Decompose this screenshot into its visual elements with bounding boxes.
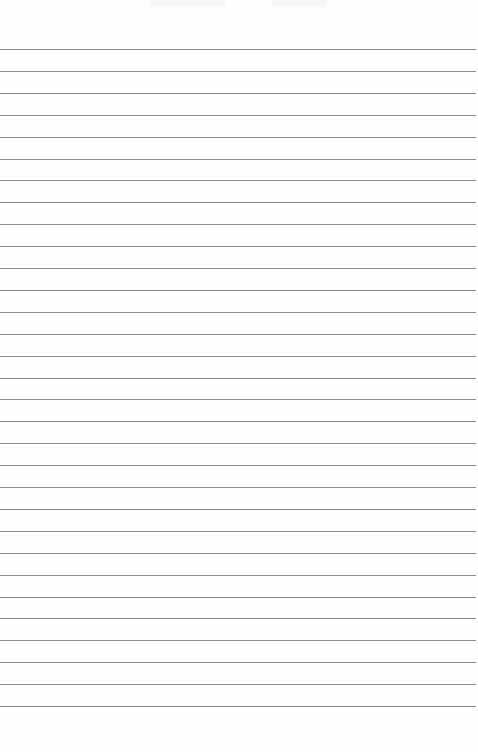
ruled-line (0, 224, 476, 225)
ruled-line (0, 246, 476, 247)
ruled-line (0, 443, 476, 444)
ruled-line (0, 575, 476, 576)
ruled-line (0, 290, 476, 291)
ruled-line (0, 487, 476, 488)
ruled-line (0, 356, 476, 357)
ruled-line (0, 421, 476, 422)
ruled-line (0, 378, 476, 379)
ruled-line (0, 180, 476, 181)
ruled-line (0, 465, 476, 466)
ruled-line (0, 640, 476, 641)
ruled-line (0, 597, 476, 598)
ruled-line (0, 49, 476, 50)
ruled-line (0, 618, 476, 619)
ruled-line (0, 684, 476, 685)
ruled-line (0, 268, 476, 269)
ruled-line (0, 312, 476, 313)
ruled-line (0, 115, 476, 116)
ruled-line (0, 93, 476, 94)
ruled-line (0, 509, 476, 510)
ruled-line (0, 531, 476, 532)
ruled-line (0, 334, 476, 335)
ruled-line (0, 137, 476, 138)
ruled-line (0, 706, 476, 707)
ruled-line (0, 553, 476, 554)
ruled-line (0, 662, 476, 663)
ruled-line (0, 71, 476, 72)
ruled-line (0, 399, 476, 400)
header-text-left (150, 0, 225, 8)
ruled-line (0, 202, 476, 203)
header-text-right (272, 0, 327, 8)
lined-paper (0, 0, 478, 752)
ruled-line (0, 159, 476, 160)
